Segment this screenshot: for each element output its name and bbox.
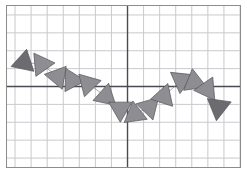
plot-frame — [6, 5, 241, 168]
screenshot-root — [0, 0, 247, 174]
axes-layer — [7, 6, 240, 167]
